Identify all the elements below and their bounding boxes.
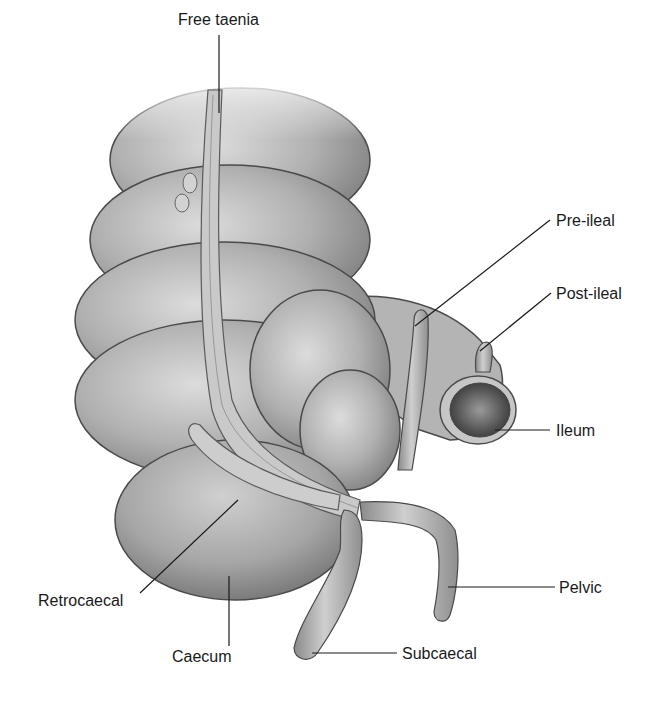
label-ileum: Ileum [556, 423, 595, 439]
label-pre-ileal: Pre-ileal [556, 213, 615, 229]
label-post-ileal: Post-ileal [556, 286, 622, 302]
label-pelvic: Pelvic [559, 580, 602, 596]
appendix-pelvic [360, 502, 458, 622]
label-caecum: Caecum [172, 649, 232, 665]
appendix-positions-diagram: Free taenia Pre-ileal Post-ileal Ileum R… [0, 0, 664, 704]
label-subcaecal: Subcaecal [402, 646, 477, 662]
label-retrocaecal: Retrocaecal [38, 593, 123, 609]
label-free-taenia: Free taenia [178, 12, 259, 28]
